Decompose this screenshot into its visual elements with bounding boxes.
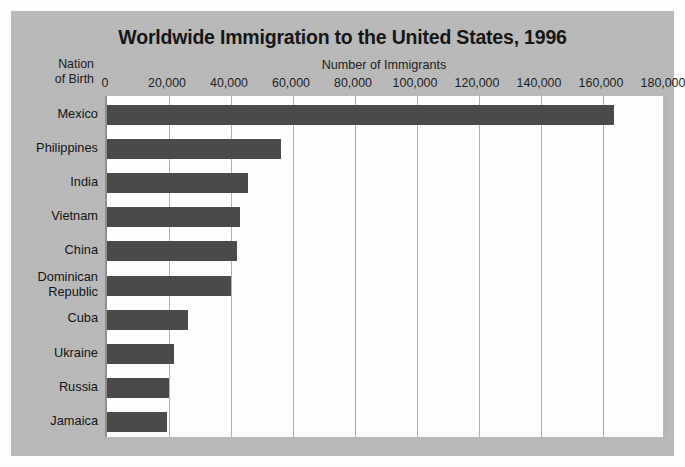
bar <box>107 412 167 432</box>
bar <box>107 241 237 261</box>
x-tick-label: 40,000 <box>210 76 248 90</box>
x-tick-label: 80,000 <box>334 76 372 90</box>
bar <box>107 310 188 330</box>
y-axis-title: Nation of Birth <box>8 57 94 86</box>
bar-row <box>107 207 665 227</box>
bar-row <box>107 412 665 432</box>
bar-row <box>107 378 665 398</box>
x-tick-label: 0 <box>102 76 109 90</box>
category-label: Ukraine <box>0 346 98 361</box>
category-label: China <box>0 243 98 258</box>
bar-row <box>107 241 665 261</box>
category-label-line: Jamaica <box>0 414 98 429</box>
category-label-line: Vietnam <box>0 209 98 224</box>
category-label-line: Republic <box>0 285 98 300</box>
category-label-line: India <box>0 175 98 190</box>
bar <box>107 105 614 125</box>
category-label-line: Philippines <box>0 141 98 156</box>
bar-row <box>107 276 665 296</box>
x-tick-label: 160,000 <box>579 76 624 90</box>
category-label: Vietnam <box>0 209 98 224</box>
category-label-line: China <box>0 243 98 258</box>
bar <box>107 276 231 296</box>
bar-row <box>107 344 665 364</box>
category-label-line: Mexico <box>0 107 98 122</box>
bar <box>107 173 248 193</box>
bar <box>107 207 240 227</box>
y-axis-title-line1: Nation <box>8 57 94 72</box>
gridline <box>665 96 666 437</box>
bar-row <box>107 139 665 159</box>
category-label-line: Ukraine <box>0 346 98 361</box>
x-tick-label: 60,000 <box>272 76 310 90</box>
category-label: DominicanRepublic <box>0 270 98 299</box>
plot-area <box>105 96 663 437</box>
category-label: Mexico <box>0 107 98 122</box>
category-label: Cuba <box>0 311 98 326</box>
category-label: India <box>0 175 98 190</box>
bar <box>107 378 169 398</box>
bar-row <box>107 310 665 330</box>
x-tick-label: 140,000 <box>517 76 562 90</box>
category-label: Jamaica <box>0 414 98 429</box>
x-axis-title: Number of Immigrants <box>105 58 663 72</box>
y-axis-title-line2: of Birth <box>8 72 94 87</box>
bar <box>107 344 174 364</box>
x-tick-label: 120,000 <box>455 76 500 90</box>
x-tick-label: 20,000 <box>148 76 186 90</box>
category-label-line: Russia <box>0 380 98 395</box>
bar-row <box>107 173 665 193</box>
category-label: Russia <box>0 380 98 395</box>
bar-row <box>107 105 665 125</box>
bar <box>107 139 281 159</box>
category-label: Philippines <box>0 141 98 156</box>
x-tick-label: 180,000 <box>641 76 685 90</box>
category-label-line: Dominican <box>0 270 98 285</box>
category-label-line: Cuba <box>0 311 98 326</box>
x-tick-label: 100,000 <box>393 76 438 90</box>
chart-figure: Worldwide Immigration to the United Stat… <box>0 0 685 467</box>
chart-title: Worldwide Immigration to the United Stat… <box>0 26 685 49</box>
